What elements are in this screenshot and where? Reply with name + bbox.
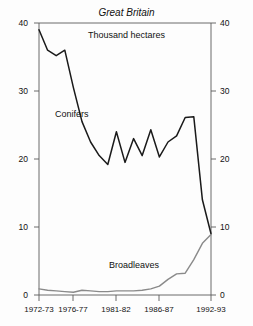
ytick-left-40: 40 [8,19,28,28]
ytick-right-40: 40 [220,19,240,28]
ytick-right-10: 10 [220,223,240,232]
ytick-right-20: 20 [220,155,240,164]
ytick-left-30: 30 [8,87,28,96]
ytick-left-20: 20 [8,155,28,164]
series-label-broadleaves: Broadleaves [109,261,159,270]
y-axis-ticks-left [34,23,39,295]
xtick-1992-93: 1992-93 [185,306,237,314]
series-label-conifers: Conifers [55,110,89,119]
y-axis-ticks-right [211,23,216,295]
ytick-left-10: 10 [8,223,28,232]
ytick-right-0: 0 [220,291,240,300]
ytick-right-30: 30 [220,87,240,96]
axis-frame [39,23,211,295]
xtick-1986-87: 1986-87 [133,306,185,314]
ytick-left-0: 0 [8,291,28,300]
series-line-conifers [39,30,211,234]
plot-area [0,0,253,326]
chart-container: Great Britain Thousand hectares [0,0,253,326]
x-axis-ticks [39,295,211,301]
